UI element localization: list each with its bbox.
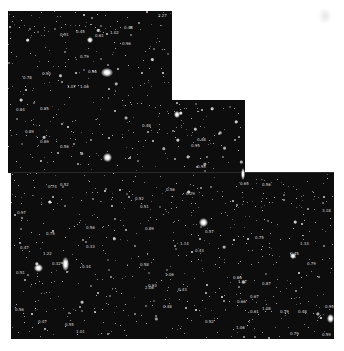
faint-source (97, 292, 99, 294)
faint-source (27, 104, 28, 105)
redshift-label: 0.95 (197, 165, 206, 169)
redshift-label: 0.32 (52, 262, 61, 266)
redshift-label: 0.79 (307, 262, 316, 266)
faint-source (117, 21, 118, 22)
redshift-label: 0.48 (142, 124, 151, 128)
faint-source (184, 273, 185, 274)
redshift-label: 0.75 (255, 236, 264, 240)
faint-source (55, 309, 56, 310)
faint-source (24, 279, 26, 281)
faint-source (78, 85, 79, 86)
faint-source (101, 159, 102, 160)
faint-source (191, 251, 193, 253)
faint-source (100, 25, 102, 27)
bright-galaxy (87, 37, 93, 43)
faint-source (120, 239, 121, 240)
faint-source (107, 151, 108, 152)
redshift-label: 3.18 (322, 209, 331, 213)
faint-source (197, 111, 198, 112)
faint-source (30, 154, 31, 155)
redshift-label: 1.08 (262, 307, 271, 311)
faint-source (72, 197, 73, 198)
faint-source (48, 31, 49, 32)
faint-source (262, 256, 263, 257)
faint-source (242, 204, 243, 205)
faint-source (217, 332, 218, 333)
redshift-label: 0.95 (191, 144, 200, 148)
faint-source (117, 165, 118, 166)
faint-source (329, 258, 330, 259)
faint-source (54, 11, 55, 12)
redshift-label: 0.47 (38, 320, 47, 324)
faint-source (170, 279, 171, 280)
redshift-label: 1.33 (300, 242, 309, 246)
faint-source (212, 199, 213, 200)
faint-source (122, 278, 123, 279)
faint-source (75, 120, 76, 121)
faint-source (92, 198, 94, 200)
redshift-label: 2.27 (158, 14, 167, 18)
bright-galaxy (327, 314, 334, 323)
faint-source (103, 250, 104, 251)
faint-source (208, 144, 209, 145)
faint-source (232, 219, 233, 220)
faint-source (16, 134, 17, 135)
redshift-label: 0.97 (17, 211, 26, 215)
faint-source (91, 169, 92, 170)
redshift-label: 0.79 (290, 332, 299, 336)
faint-source (112, 54, 113, 55)
faint-source (152, 305, 153, 306)
faint-source (61, 81, 63, 83)
faint-source (21, 217, 23, 219)
redshift-label: 0.56 (166, 188, 175, 192)
faint-source (56, 141, 57, 142)
redshift-label: 0.89 (40, 140, 49, 144)
faint-source (215, 264, 216, 265)
faint-source (228, 162, 229, 163)
faint-source (262, 246, 263, 247)
faint-source (119, 189, 121, 191)
redshift-label: 0.67 (250, 295, 259, 299)
redshift-label: 0.51 (60, 33, 69, 37)
faint-source (234, 209, 235, 210)
faint-source (122, 137, 123, 138)
faint-source (146, 323, 147, 324)
redshift-label: 0.65 (240, 182, 249, 186)
faint-source (66, 48, 67, 49)
faint-source (29, 251, 30, 252)
star-field (8, 11, 172, 173)
faint-source (134, 245, 136, 247)
faint-source (303, 214, 304, 215)
redshift-label: 0.79 (280, 310, 289, 314)
faint-source (223, 300, 225, 302)
faint-source (12, 194, 13, 195)
redshift-label: 0.51 (140, 205, 149, 209)
faint-source (52, 106, 53, 107)
faint-source (11, 135, 12, 136)
faint-source (94, 214, 95, 215)
faint-source (56, 139, 57, 140)
faint-source (332, 244, 333, 245)
faint-source (269, 247, 270, 248)
redshift-label: 0.48 (124, 26, 133, 30)
faint-source (16, 118, 18, 120)
redshift-label: 0.51 (16, 271, 25, 275)
faint-source (136, 233, 137, 234)
faint-source (168, 212, 169, 213)
redshift-label: 0.33 (86, 245, 95, 249)
faint-source (181, 120, 182, 121)
faint-source (114, 110, 116, 112)
redshift-label: 0.56 (15, 308, 24, 312)
faint-source (51, 152, 52, 153)
faint-source (21, 203, 22, 204)
redshift-label: 0.85 (40, 107, 49, 111)
redshift-label: 0.34 (82, 265, 91, 269)
chip-seam (11, 172, 334, 173)
faint-source (224, 259, 225, 260)
redshift-label: 0.56 (88, 70, 97, 74)
faint-source (166, 211, 167, 212)
faint-source (184, 333, 185, 334)
faint-source (295, 290, 297, 292)
faint-source (97, 279, 98, 280)
faint-source (98, 155, 99, 156)
